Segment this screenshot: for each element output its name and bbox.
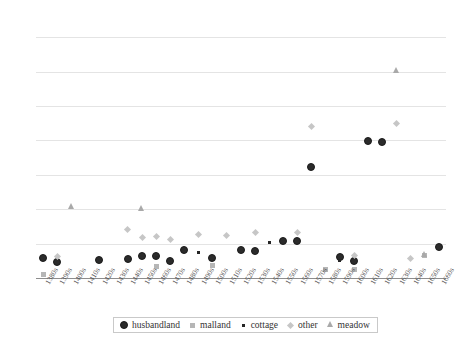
data-point-other: [153, 232, 160, 239]
data-point-husbandland: [208, 254, 216, 262]
data-point-husbandland: [251, 247, 259, 255]
data-point-other: [195, 231, 202, 238]
data-point-husbandland: [166, 257, 174, 265]
plot-area: 010203040506070: [36, 20, 446, 278]
gridline: [36, 175, 446, 176]
gridline: [36, 37, 446, 38]
legend-item-meadow[interactable]: meadow: [327, 320, 370, 330]
data-point-husbandland: [39, 254, 47, 262]
data-point-husbandland: [124, 255, 132, 263]
data-point-husbandland: [364, 137, 372, 145]
data-point-husbandland: [138, 252, 146, 260]
data-point-other: [124, 226, 131, 233]
data-point-other: [167, 236, 174, 243]
data-point-husbandland: [279, 237, 287, 245]
data-point-cottage: [197, 251, 200, 254]
gridline: [36, 244, 446, 245]
legend-label: other: [298, 320, 318, 330]
rent-scatter-chart: Rent (s.) 010203040506070 1380s1390s1400…: [0, 0, 457, 351]
data-point-meadow: [68, 203, 74, 209]
data-point-cottage: [155, 256, 158, 259]
data-point-other: [294, 229, 301, 236]
data-point-husbandland: [378, 138, 386, 146]
data-point-other: [308, 123, 315, 130]
legend-item-other[interactable]: other: [287, 320, 318, 330]
data-point-meadow: [421, 251, 427, 257]
data-point-husbandland: [237, 246, 245, 254]
data-point-husbandland: [180, 246, 188, 254]
chart-legend: husbandlandmallandcottageothermeadow: [113, 317, 378, 333]
legend-label: meadow: [338, 320, 370, 330]
legend-item-husbandland[interactable]: husbandland: [121, 320, 180, 330]
malland-marker-icon: [189, 322, 196, 329]
legend-label: husbandland: [132, 320, 180, 330]
other-marker-icon: [287, 322, 294, 329]
legend-item-cottage[interactable]: cottage: [240, 320, 278, 330]
data-point-other: [252, 229, 259, 236]
data-point-husbandland: [95, 256, 103, 264]
legend-label: cottage: [251, 320, 278, 330]
data-point-meadow: [393, 67, 399, 73]
meadow-marker-icon: [327, 322, 334, 329]
data-point-husbandland: [435, 243, 443, 251]
gridline: [36, 209, 446, 210]
data-point-other: [138, 234, 145, 241]
data-point-other: [407, 255, 414, 262]
data-point-other: [223, 231, 230, 238]
legend-label: malland: [200, 320, 231, 330]
data-point-cottage: [338, 259, 341, 262]
data-point-meadow: [138, 205, 144, 211]
data-point-other: [393, 120, 400, 127]
cottage-marker-icon: [240, 322, 247, 329]
data-point-husbandland: [307, 163, 315, 171]
legend-item-malland[interactable]: malland: [189, 320, 231, 330]
gridline: [36, 106, 446, 107]
husbandland-marker-icon: [121, 322, 128, 329]
gridline: [36, 72, 446, 73]
data-point-cottage: [268, 241, 271, 244]
